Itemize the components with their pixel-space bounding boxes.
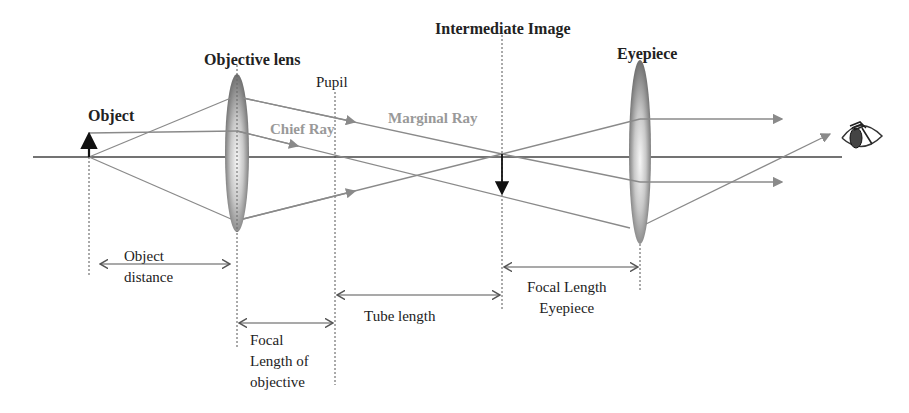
- pupil-label: Pupil: [316, 74, 348, 91]
- eyepiece-label: Eyepiece: [617, 45, 677, 62]
- eyepiece-lens-shape: [629, 60, 651, 244]
- chief-ray-in: [89, 131, 237, 133]
- focal-length-objective-label: Focal Length of objective: [250, 330, 309, 393]
- ray-image-to-eyepiece-upper: [502, 119, 640, 154]
- chief-ray-label: Chief Ray: [270, 121, 335, 138]
- focal-length-eyepiece-label: Focal Length Eyepiece: [527, 277, 607, 319]
- marginal-ray-lower-in: [89, 157, 231, 219]
- object-label: Object: [88, 107, 134, 124]
- ray-out-chief: [646, 134, 830, 224]
- marginal-ray-label: Marginal Ray: [388, 110, 478, 127]
- eye-icon: [842, 122, 882, 148]
- object-distance-label: Object distance: [124, 246, 173, 288]
- objective-lens-label: Objective lens: [204, 51, 300, 68]
- tube-length-label: Tube length: [364, 308, 436, 325]
- ray-image-to-eyepiece-lower: [502, 154, 640, 182]
- marginal-ray-lower-arrow: [243, 191, 355, 219]
- intermediate-image-label: Intermediate Image: [435, 20, 571, 37]
- marginal-ray-upper-arrow: [243, 98, 355, 122]
- microscope-diagram: [0, 0, 909, 413]
